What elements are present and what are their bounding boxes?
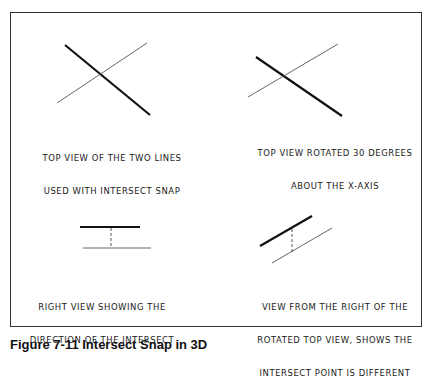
label-line: TOP VIEW ROTATED 30 DEGREES bbox=[252, 147, 418, 158]
figure-caption: Figure 7-11 Intersect Snap in 3D bbox=[10, 337, 207, 352]
rotated-right-view-label: VIEW FROM THE RIGHT OF THE ROTATED TOP V… bbox=[252, 279, 418, 380]
label-line: ABOUT THE X-AXIS bbox=[252, 180, 418, 191]
rotated-top-view-label: TOP VIEW ROTATED 30 DEGREES ABOUT THE X-… bbox=[252, 125, 418, 202]
top-view-label: TOP VIEW OF THE TWO LINES USED WITH INTE… bbox=[29, 130, 195, 207]
label-line: RIGHT VIEW SHOWING THE bbox=[19, 301, 185, 312]
label-line: USED WITH INTERSECT SNAP bbox=[29, 185, 195, 196]
rotated-top-view-thick-line bbox=[256, 57, 342, 116]
label-line: VIEW FROM THE RIGHT OF THE bbox=[252, 301, 418, 312]
top-view-thin-line bbox=[57, 43, 147, 103]
label-line: ROTATED TOP VIEW, SHOWS THE bbox=[252, 334, 418, 345]
rotated-right-view-thick-line bbox=[260, 216, 312, 246]
rotated-top-view-thin-line bbox=[248, 44, 338, 97]
top-view-thick-line bbox=[65, 45, 150, 115]
label-line: TOP VIEW OF THE TWO LINES bbox=[29, 152, 195, 163]
label-line: INTERSECT POINT IS DIFFERENT bbox=[252, 367, 418, 378]
